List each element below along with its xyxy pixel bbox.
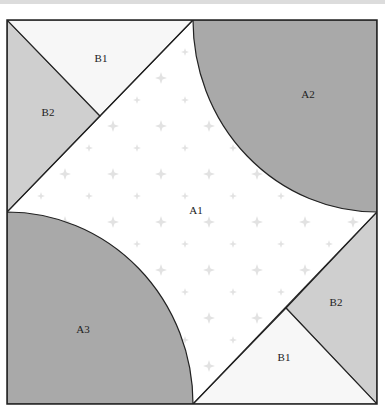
label-b1-bottom: B1 [278,351,291,363]
label-a1: A1 [189,204,202,216]
label-b2-top: B2 [42,106,55,118]
label-b2-bottom: B2 [330,296,343,308]
quilt-block-diagram: B1 B2 A2 A1 A3 B2 B1 [0,0,385,418]
label-a2: A2 [301,88,314,100]
label-b1-top: B1 [95,52,108,64]
label-a3: A3 [76,323,90,335]
